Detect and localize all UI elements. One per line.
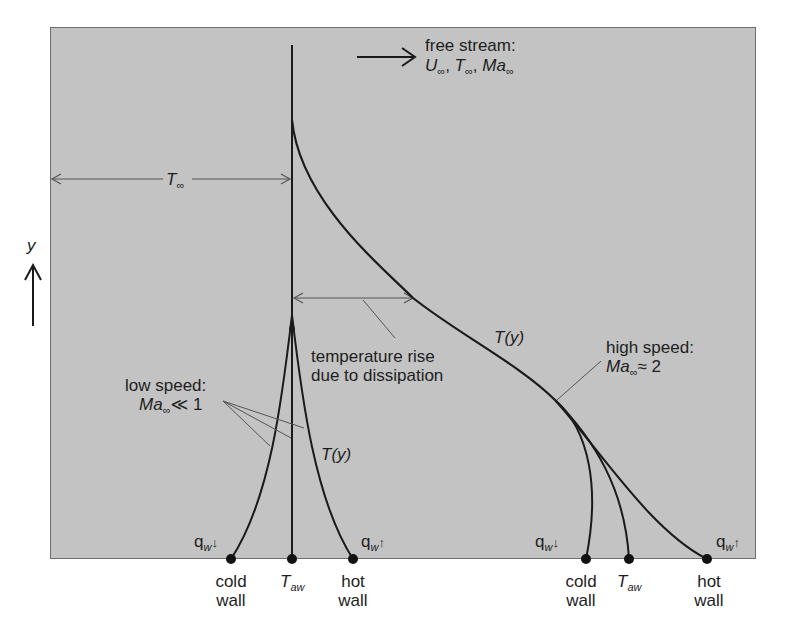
high-speed-taw-label: Taw bbox=[617, 572, 641, 593]
free-stream-params: U∞, T∞, Ma∞ bbox=[425, 56, 514, 77]
low-speed-cold-q-label: qw↓ bbox=[194, 532, 218, 553]
low-speed-cold-wall-label: cold wall bbox=[206, 572, 256, 610]
temperature-rise-dimension-line bbox=[294, 298, 413, 338]
dissipation-label: temperature rise due to dissipation bbox=[311, 347, 491, 385]
high-speed-cold-wall-label: cold wall bbox=[556, 572, 606, 610]
high-speed-cold-q-label: qw↓ bbox=[535, 532, 559, 553]
diagram-graphics bbox=[0, 0, 809, 633]
y-axis-label: y bbox=[27, 236, 36, 255]
low-speed-profile-label: T(y) bbox=[321, 445, 351, 464]
y-axis-arrow-icon bbox=[25, 265, 41, 326]
low-speed-taw-label: Taw bbox=[280, 572, 304, 593]
high-speed-hot-wall-curve bbox=[555, 400, 707, 559]
low-speed-hot-q-label: qw↑ bbox=[361, 532, 385, 553]
high-speed-hot-q-label: qw↑ bbox=[716, 532, 740, 553]
low-speed-cold-wall-curve bbox=[231, 315, 292, 559]
free-stream-title: free stream: bbox=[425, 36, 516, 55]
high-speed-hot-wall-label: hot wall bbox=[684, 572, 734, 610]
high-speed-cold-wall-curve bbox=[555, 400, 592, 559]
free-stream-arrow-icon bbox=[357, 48, 415, 66]
low-speed-label: low speed: Ma∞≪ 1 bbox=[125, 376, 206, 416]
t-inf-label: T∞ bbox=[166, 170, 184, 191]
wall-points bbox=[226, 554, 712, 564]
high-speed-profile-label: T(y) bbox=[494, 328, 524, 347]
high-speed-label: high speed: Ma∞≈ 2 bbox=[606, 338, 694, 378]
high-speed-leader bbox=[557, 361, 601, 400]
low-speed-hot-wall-label: hot wall bbox=[328, 572, 378, 610]
